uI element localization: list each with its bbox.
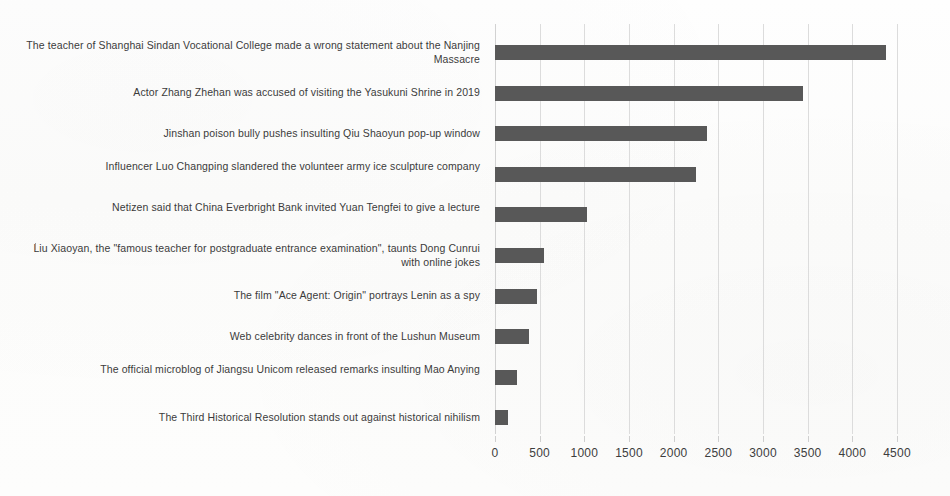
x-tick-label-3500: 3500: [794, 446, 822, 460]
category-label: Jinshan poison bully pushes insulting Qi…: [14, 126, 480, 140]
gridline-4500: [897, 24, 898, 434]
category-label: The Third Historical Resolution stands o…: [14, 410, 480, 424]
bar[interactable]: [495, 289, 537, 304]
x-tick-mark-1000: [584, 436, 585, 442]
x-tick-label-4500: 4500: [883, 446, 911, 460]
bar[interactable]: [495, 370, 517, 385]
category-label: Influencer Luo Changping slandered the v…: [14, 159, 480, 173]
x-tick-mark-0: [495, 436, 496, 442]
category-label: Netizen said that China Everbright Bank …: [14, 200, 480, 214]
gridline-3500: [808, 24, 809, 434]
category-axis-labels: The teacher of Shanghai Sindan Vocationa…: [20, 24, 488, 434]
bar[interactable]: [495, 86, 803, 101]
x-tick-label-2500: 2500: [705, 446, 733, 460]
category-label: Actor Zhang Zhehan was accused of visiti…: [14, 85, 480, 99]
bar[interactable]: [495, 248, 544, 263]
category-label: The teacher of Shanghai Sindan Vocationa…: [14, 38, 480, 66]
category-label: Liu Xiaoyan, the "famous teacher for pos…: [14, 241, 480, 269]
bar[interactable]: [495, 329, 529, 344]
category-label: The official microblog of Jiangsu Unicom…: [14, 362, 480, 376]
bar[interactable]: [495, 410, 508, 425]
plot-area: [495, 24, 897, 434]
gridline-4000: [852, 24, 853, 434]
chart-page: The teacher of Shanghai Sindan Vocationa…: [0, 0, 950, 496]
x-tick-label-1500: 1500: [615, 446, 643, 460]
x-tick-mark-4000: [852, 436, 853, 442]
x-tick-label-500: 500: [529, 446, 550, 460]
bar[interactable]: [495, 45, 886, 60]
x-tick-mark-3000: [763, 436, 764, 442]
x-tick-mark-2000: [674, 436, 675, 442]
x-tick-mark-4500: [897, 436, 898, 442]
x-tick-label-2000: 2000: [660, 446, 688, 460]
category-label: The film "Ace Agent: Origin" portrays Le…: [14, 288, 480, 302]
bar[interactable]: [495, 207, 587, 222]
scan-artifact-speck: [35, 243, 36, 250]
x-axis: 050010001500200025003000350040004500: [495, 446, 897, 466]
x-tick-mark-2500: [718, 436, 719, 442]
bar[interactable]: [495, 126, 707, 141]
x-tick-label-4000: 4000: [839, 446, 867, 460]
x-tick-label-0: 0: [492, 446, 499, 460]
x-tick-label-1000: 1000: [571, 446, 599, 460]
x-tick-label-3000: 3000: [749, 446, 777, 460]
x-tick-mark-1500: [629, 436, 630, 442]
x-tick-mark-500: [540, 436, 541, 442]
x-tick-mark-3500: [808, 436, 809, 442]
bar[interactable]: [495, 167, 696, 182]
category-label: Web celebrity dances in front of the Lus…: [14, 329, 480, 343]
